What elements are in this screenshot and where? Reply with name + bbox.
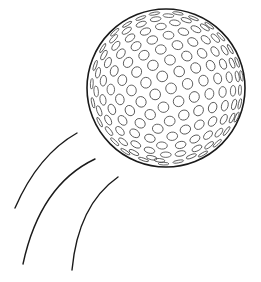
motion-line: [15, 133, 77, 208]
illustration-canvas: [0, 0, 261, 282]
golf-ball-illustration: [0, 0, 261, 282]
motion-line: [72, 177, 118, 270]
motion-lines: [15, 133, 118, 270]
golf-ball: [87, 9, 245, 167]
